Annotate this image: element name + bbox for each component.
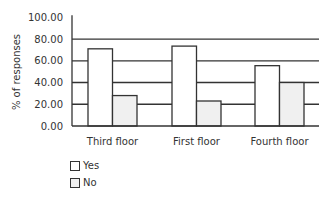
bars [88, 46, 304, 126]
y-tick-label: 0.00 [41, 121, 63, 132]
legend-label-yes: Yes [83, 160, 99, 171]
category-label: Fourth floor [250, 136, 309, 147]
legend-item-no: No [70, 174, 99, 191]
bar-yes [172, 46, 197, 126]
legend: Yes No [70, 157, 99, 191]
category-labels: Third floorFirst floorFourth floor [86, 136, 310, 147]
bar-chart: 0.0020.0040.0060.0080.00100.00 Third flo… [0, 0, 333, 198]
bar-no [280, 83, 305, 126]
bar-yes [255, 66, 280, 126]
category-label: Third floor [86, 136, 139, 147]
y-tick-label: 80.00 [34, 34, 63, 45]
y-axis-label: % of responses [11, 34, 22, 110]
category-label: First floor [173, 136, 221, 147]
legend-label-no: No [83, 177, 97, 188]
y-tick-label: 20.00 [34, 99, 63, 110]
legend-item-yes: Yes [70, 157, 99, 174]
y-tick-labels: 0.0020.0040.0060.0080.00100.00 [28, 12, 63, 132]
legend-swatch-yes [70, 161, 80, 171]
bar-no [197, 101, 222, 126]
bar-no [113, 96, 138, 126]
legend-swatch-no [70, 178, 80, 188]
bar-yes [88, 49, 113, 126]
y-tick-label: 60.00 [34, 55, 63, 66]
y-tick-label: 40.00 [34, 77, 63, 88]
y-tick-label: 100.00 [28, 12, 63, 23]
